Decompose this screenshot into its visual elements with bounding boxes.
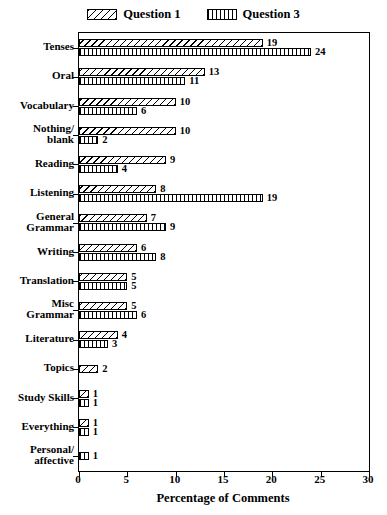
legend-swatch-question-3-icon (207, 9, 237, 20)
bar-question-1 (79, 390, 89, 398)
bar-value-label: 6 (141, 107, 146, 115)
y-axis-category-label: Tenses (0, 41, 74, 52)
x-axis-tick-label: 25 (314, 474, 325, 485)
y-axis-category-label: Oral (0, 70, 74, 81)
y-axis-category-label: Topics (0, 362, 74, 373)
bar-question-3 (79, 223, 166, 231)
bar-value-label: 3 (112, 340, 117, 348)
chart-legend: Question 1 Question 3 (0, 8, 387, 21)
x-axis-tick-label: 5 (124, 474, 130, 485)
bar-question-1 (79, 365, 98, 373)
x-axis-tick-label: 30 (363, 474, 374, 485)
bar-question-1 (79, 98, 176, 106)
bar-value-label: 19 (267, 39, 278, 47)
bar-question-1 (79, 185, 156, 193)
y-axis-category-label: Literature (0, 333, 74, 344)
y-axis-category-label: Translation (0, 275, 74, 286)
bar-value-label: 6 (141, 311, 146, 319)
bar-value-label: 13 (209, 68, 220, 76)
bar-question-1 (79, 214, 147, 222)
legend-label-question-1: Question 1 (123, 8, 180, 21)
bar-question-3 (79, 399, 89, 407)
bar-value-label: 11 (189, 77, 199, 85)
legend-entry-question-1: Question 1 (87, 8, 180, 21)
legend-entry-question-3: Question 3 (207, 8, 300, 21)
bar-value-label: 5 (131, 302, 136, 310)
bar-question-3 (79, 77, 185, 85)
bar-value-label: 5 (131, 282, 136, 290)
bar-value-label: 1 (93, 399, 98, 407)
bar-value-label: 6 (141, 244, 146, 252)
y-axis-category-label: Writing (0, 246, 74, 257)
bar-chart: Question 1 Question 3 192413111061029481… (0, 0, 387, 515)
bar-value-label: 9 (170, 223, 175, 231)
bar-question-1 (79, 127, 176, 135)
bar-question-3 (79, 282, 127, 290)
y-axis-category-label: Personal/ affective (0, 444, 74, 466)
bar-question-1 (79, 244, 137, 252)
bar-question-3 (79, 48, 311, 56)
bar-value-label: 10 (180, 127, 191, 135)
bar-question-3 (79, 311, 137, 319)
bar-question-3 (79, 452, 89, 460)
bar-question-1 (79, 39, 263, 47)
bar-question-3 (79, 194, 263, 202)
y-axis-category-label: Reading (0, 158, 74, 169)
bar-question-1 (79, 302, 127, 310)
bar-value-label: 8 (160, 185, 165, 193)
bar-question-1 (79, 273, 127, 281)
y-axis-category-label: Study Skills (0, 392, 74, 403)
bar-value-label: 4 (122, 165, 127, 173)
bar-question-1 (79, 419, 89, 427)
y-axis-category-label: Nothing/ blank (0, 123, 74, 145)
bar-value-label: 1 (93, 452, 98, 460)
y-axis-category-label: Misc Grammar (0, 298, 74, 320)
bar-value-label: 10 (180, 98, 191, 106)
x-axis-tick-label: 10 (169, 474, 180, 485)
bar-value-label: 19 (267, 194, 278, 202)
bar-question-3 (79, 107, 137, 115)
x-axis-tick-label: 20 (266, 474, 277, 485)
bar-question-3 (79, 253, 156, 261)
plot-area: 19241311106102948197968555643211111 (78, 32, 370, 472)
x-axis-title: Percentage of Comments (78, 492, 368, 505)
legend-label-question-3: Question 3 (243, 8, 300, 21)
bar-value-label: 8 (160, 253, 165, 261)
bar-value-label: 1 (93, 428, 98, 436)
x-axis-tick-label: 0 (75, 474, 81, 485)
bar-value-label: 2 (102, 365, 107, 373)
bar-value-label: 2 (102, 136, 107, 144)
bar-question-3 (79, 165, 118, 173)
y-axis-category-label: Vocabulary (0, 100, 74, 111)
bar-value-label: 24 (315, 48, 326, 56)
bar-question-3 (79, 340, 108, 348)
bar-value-label: 4 (122, 331, 127, 339)
y-axis-category-label: Listening (0, 187, 74, 198)
bar-value-label: 9 (170, 156, 175, 164)
bar-question-1 (79, 68, 205, 76)
legend-swatch-question-1-icon (87, 9, 117, 20)
y-axis-category-label: General Grammar (0, 211, 74, 233)
bar-question-3 (79, 428, 89, 436)
bar-question-3 (79, 136, 98, 144)
x-axis-tick-label: 15 (218, 474, 229, 485)
y-axis-category-label: Everything (0, 421, 74, 432)
bar-value-label: 7 (151, 214, 156, 222)
